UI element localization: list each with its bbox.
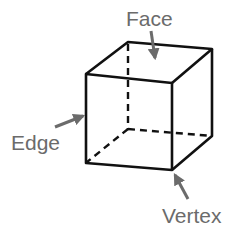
hidden-edges [87, 44, 212, 162]
edge-label: Edge [11, 131, 60, 154]
vertex-label: Vertex [162, 204, 222, 227]
vertex-arrow-icon [175, 175, 188, 199]
face-arrow-icon [151, 31, 155, 58]
face-label: Face [126, 7, 173, 30]
cube-figure: Face Edge Vertex [0, 0, 238, 238]
hidden-edge-back-bottom [128, 129, 212, 136]
visible-edges [86, 42, 212, 170]
edge-arrow-icon [55, 116, 83, 127]
hidden-edge-left-bottom [87, 129, 128, 162]
cube-diagram: Face Edge Vertex [0, 0, 238, 238]
